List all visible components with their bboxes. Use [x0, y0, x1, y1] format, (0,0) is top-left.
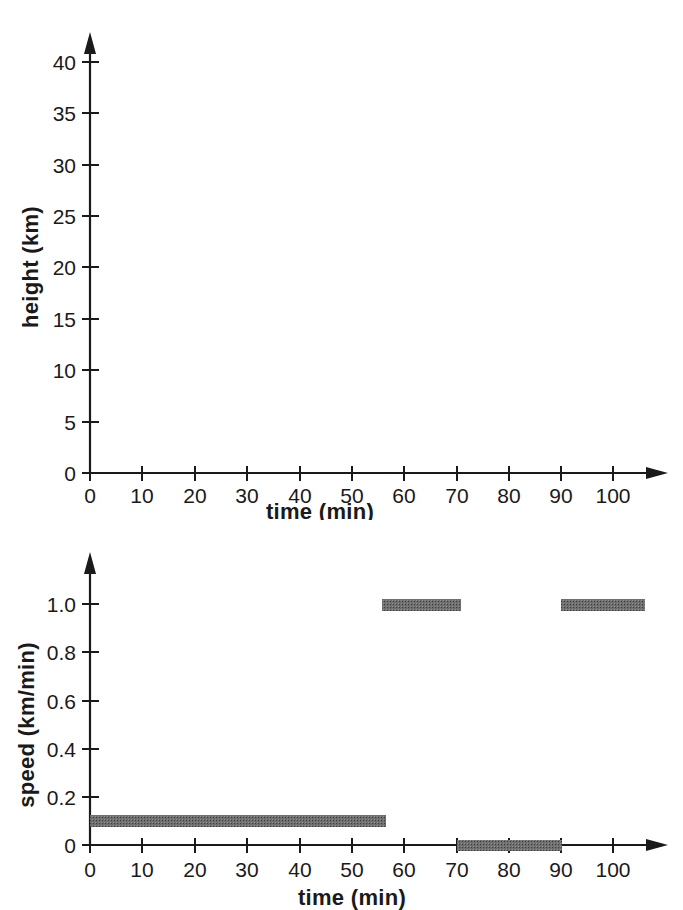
x-tick-label: 50	[340, 858, 363, 881]
chart-height-svg: 0 5 10 15 20 25 30 35 40 0 10	[0, 0, 683, 520]
chart-height-vs-time: 0 5 10 15 20 25 30 35 40 0 10	[0, 0, 683, 520]
y-tick-label: 25	[53, 205, 76, 228]
y-tick-label: 35	[53, 102, 76, 125]
y-axis-title-height: height (km)	[18, 206, 43, 328]
x-tick-label: 80	[497, 858, 520, 881]
y-tick-label: 20	[53, 256, 76, 279]
x-tick-label: 100	[595, 858, 630, 881]
x-tick-label: 90	[549, 484, 572, 507]
y-tick-label: 15	[53, 308, 76, 331]
x-tick-label: 100	[595, 484, 630, 507]
x-tick-label: 10	[130, 484, 153, 507]
speed-segment-1.0-a	[382, 599, 461, 611]
x-tick-label: 40	[288, 858, 311, 881]
y-tick-label: 0.6	[47, 690, 76, 713]
chart-height-background	[0, 0, 683, 520]
y-tick-label: 30	[53, 154, 76, 177]
y-tick-label: 10	[53, 359, 76, 382]
x-tick-label: 30	[235, 484, 258, 507]
x-tick-label: 20	[183, 484, 206, 507]
x-tick-label: 90	[549, 858, 572, 881]
y-tick-label: 0	[64, 462, 76, 485]
y-tick-label: 0.4	[47, 738, 77, 761]
x-tick-label: 80	[497, 484, 520, 507]
y-tick-label: 0.8	[47, 641, 76, 664]
y-axis-title-speed: speed (km/min)	[14, 642, 39, 808]
x-tick-label: 70	[445, 484, 468, 507]
y-tick-label: 5	[64, 411, 76, 434]
x-tick-label: 60	[392, 484, 415, 507]
chart-speed-vs-time: 0 0.2 0.4 0.6 0.8 1.0 0 10 20 30	[0, 520, 683, 910]
x-tick-label: 30	[235, 858, 258, 881]
x-axis-title-height: time (min)	[266, 499, 374, 520]
x-axis-title-speed: time (min)	[298, 885, 406, 910]
chart-speed-background	[0, 520, 683, 910]
speed-segment-1.0-b	[561, 599, 645, 611]
x-tick-label: 60	[392, 858, 415, 881]
x-tick-label: 10	[130, 858, 153, 881]
y-tick-label: 1.0	[47, 593, 76, 616]
chart-speed-svg: 0 0.2 0.4 0.6 0.8 1.0 0 10 20 30	[0, 520, 683, 910]
y-tick-label: 40	[53, 51, 76, 74]
x-tick-label: 0	[84, 858, 96, 881]
y-tick-label: 0	[64, 834, 76, 857]
speed-segment-0	[457, 840, 562, 851]
x-tick-label: 20	[183, 858, 206, 881]
y-tick-label: 0.2	[47, 786, 76, 809]
speed-segment-0.1	[90, 815, 386, 827]
x-tick-label: 70	[445, 858, 468, 881]
x-tick-label: 0	[84, 484, 96, 507]
